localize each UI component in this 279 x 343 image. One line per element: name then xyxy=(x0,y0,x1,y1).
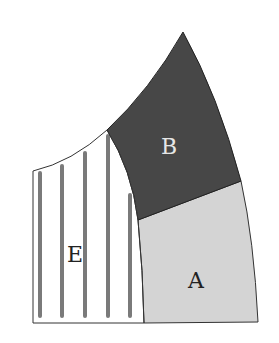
label-e: E xyxy=(67,242,83,267)
label-a: A xyxy=(187,268,205,293)
label-b: B xyxy=(161,134,177,159)
sector-diagram: B E A xyxy=(0,0,279,343)
